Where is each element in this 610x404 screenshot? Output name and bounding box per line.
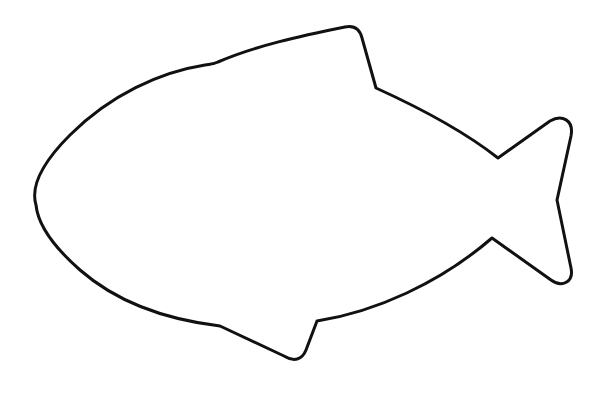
fish-body-outline [35, 27, 572, 360]
fish-drawing-canvas [0, 0, 610, 404]
fish-outline-icon [0, 0, 610, 404]
